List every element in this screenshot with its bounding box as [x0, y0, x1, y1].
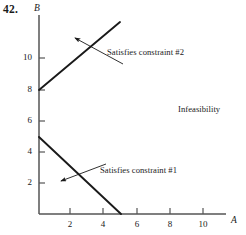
x-tick-label: 2	[63, 220, 77, 229]
x-axis-label: A	[231, 216, 237, 226]
constraint-1-line	[39, 137, 121, 214]
y-tick-label: 10	[14, 53, 32, 62]
constraint-2-annotation: Satisfies constraint #2	[107, 48, 184, 57]
y-axis-ticks	[39, 58, 45, 183]
y-tick-label: 2	[14, 178, 32, 187]
constraint-1-annotation: Satisfies constraint #1	[100, 166, 177, 175]
x-tick-label: 4	[96, 220, 110, 229]
x-axis-ticks	[70, 208, 203, 214]
y-tick-label: 8	[14, 85, 32, 94]
y-tick-label: 6	[14, 116, 32, 125]
x-tick-label: 10	[196, 220, 210, 229]
plot-area	[0, 0, 246, 235]
infeasibility-region-label: Infeasibility	[178, 105, 220, 114]
constraint-graph-figure: 42. B A 2 4 6 8 10 2 4 6 8 10 Satisfies …	[0, 0, 246, 235]
y-tick-label: 4	[14, 147, 32, 156]
x-tick-label: 8	[163, 220, 177, 229]
problem-number: 42.	[3, 4, 18, 16]
y-axis-label: B	[34, 4, 40, 14]
x-tick-label: 6	[130, 220, 144, 229]
